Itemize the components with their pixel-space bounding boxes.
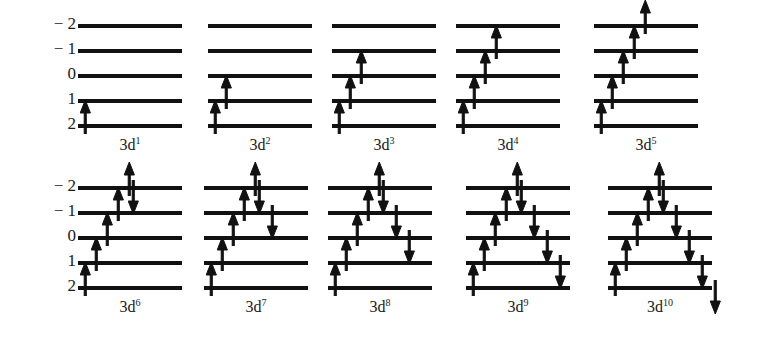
caption-base: 3d: [246, 298, 262, 315]
caption-base: 3d: [498, 136, 514, 153]
configuration-caption: 3d4: [456, 136, 560, 154]
caption-superscript: 3: [390, 135, 395, 146]
orbital-level-line: [332, 124, 436, 128]
energy-level-group: [608, 186, 712, 290]
up-spin-arrow: [206, 262, 217, 296]
configuration-panel-3d5: 3d5: [594, 8, 726, 178]
up-spin-arrow: [629, 25, 640, 59]
up-spin-arrow: [363, 187, 374, 221]
up-spin-arrow: [632, 212, 643, 246]
configuration-panel-3d6: 3d6: [78, 170, 210, 340]
up-spin-arrow: [210, 100, 221, 134]
m-axis-label: 1: [68, 90, 77, 107]
up-spin-arrow: [239, 187, 250, 221]
configuration-caption: 3d6: [78, 298, 182, 316]
orbital-level-line: [332, 24, 436, 28]
orbital-level-line: [456, 24, 560, 28]
m-axis-label: − 1: [54, 40, 76, 57]
up-spin-arrow: [480, 50, 491, 84]
m-axis-label: 1: [68, 252, 77, 269]
up-spin-arrow: [618, 50, 629, 84]
orbital-level-line: [594, 49, 698, 53]
down-spin-arrow: [391, 205, 402, 239]
up-spin-arrow: [468, 262, 479, 296]
orbital-level-line: [456, 49, 560, 53]
energy-level-group: [594, 24, 698, 128]
orbital-level-line: [594, 124, 698, 128]
up-spin-arrow: [640, 0, 651, 34]
caption-superscript: 9: [524, 297, 529, 308]
orbital-level-line: [204, 286, 308, 290]
up-spin-arrow: [469, 75, 480, 109]
configuration-caption: 3d5: [594, 136, 698, 154]
m-axis-label: 2: [68, 277, 77, 294]
down-spin-arrow: [529, 205, 540, 239]
configuration-panel-3d10: 3d10: [608, 170, 740, 340]
caption-superscript: 5: [652, 135, 657, 146]
up-spin-arrow: [607, 75, 618, 109]
orbital-level-line: [332, 49, 436, 53]
down-spin-arrow: [516, 180, 527, 214]
up-spin-arrow: [80, 262, 91, 296]
down-spin-arrow: [671, 205, 682, 239]
caption-base: 3d: [636, 136, 652, 153]
up-spin-arrow: [91, 237, 102, 271]
energy-level-group: [456, 24, 560, 128]
m-axis-label: 0: [68, 227, 77, 244]
caption-superscript: 10: [663, 297, 673, 308]
orbital-level-line: [78, 286, 182, 290]
energy-level-group: [332, 24, 436, 128]
down-spin-arrow: [658, 180, 669, 214]
energy-level-group: [466, 186, 570, 290]
down-spin-arrow: [542, 230, 553, 264]
caption-base: 3d: [647, 298, 663, 315]
up-spin-arrow: [458, 100, 469, 134]
orbital-level-line: [208, 49, 312, 53]
up-spin-arrow: [217, 237, 228, 271]
up-spin-arrow: [501, 187, 512, 221]
up-spin-arrow: [596, 100, 607, 134]
down-spin-arrow: [254, 180, 265, 214]
caption-base: 3d: [120, 298, 136, 315]
up-spin-arrow: [491, 25, 502, 59]
up-spin-arrow: [490, 212, 501, 246]
m-axis-label: − 2: [54, 177, 76, 194]
up-spin-arrow: [221, 75, 232, 109]
diagram-row-2: − 2− 10123d63d73d83d93d10: [0, 170, 760, 340]
energy-level-group: [204, 186, 308, 290]
up-spin-arrow: [330, 262, 341, 296]
configuration-caption: 3d3: [332, 136, 436, 154]
m-axis-label: 2: [68, 115, 77, 132]
orbital-level-line: [456, 124, 560, 128]
caption-superscript: 6: [136, 297, 141, 308]
down-spin-arrow: [128, 180, 139, 214]
up-spin-arrow: [228, 212, 239, 246]
down-spin-arrow: [267, 205, 278, 239]
energy-level-group: [328, 186, 432, 290]
caption-base: 3d: [370, 298, 386, 315]
down-spin-arrow: [404, 230, 415, 264]
configuration-caption: 3d10: [608, 298, 712, 316]
down-spin-arrow: [697, 255, 708, 289]
energy-level-group: [78, 186, 182, 290]
up-spin-arrow: [80, 100, 91, 134]
orbital-level-line: [78, 124, 182, 128]
configuration-caption: 3d7: [204, 298, 308, 316]
d-orbital-filling-figure: − 2− 10123d13d23d33d43d5− 2− 10123d63d73…: [0, 0, 760, 361]
up-spin-arrow: [610, 262, 621, 296]
up-spin-arrow: [643, 187, 654, 221]
configuration-panel-3d7: 3d7: [204, 170, 336, 340]
orbital-level-line: [78, 99, 182, 103]
down-spin-arrow: [555, 255, 566, 289]
configuration-caption: 3d2: [208, 136, 312, 154]
up-spin-arrow: [341, 237, 352, 271]
energy-level-group: [78, 24, 182, 128]
configuration-panel-3d4: 3d4: [456, 8, 588, 178]
down-spin-arrow: [684, 230, 695, 264]
caption-superscript: 8: [386, 297, 391, 308]
up-spin-arrow: [334, 100, 345, 134]
caption-superscript: 4: [514, 135, 519, 146]
up-spin-arrow: [356, 50, 367, 84]
orbital-level-line: [78, 24, 182, 28]
caption-base: 3d: [374, 136, 390, 153]
